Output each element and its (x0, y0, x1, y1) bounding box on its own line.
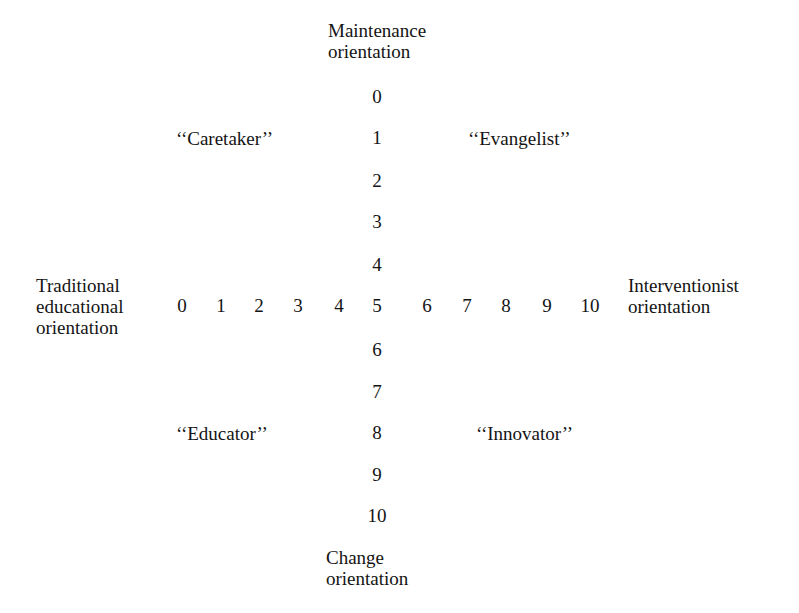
left-axis-label-line3: orientation (36, 317, 124, 338)
vertical-tick-3: 3 (362, 212, 392, 232)
horizontal-tick-4: 4 (324, 296, 354, 316)
bottom-axis-label-line2: orientation (326, 568, 408, 589)
vertical-tick-2: 2 (362, 171, 392, 191)
quadrant-innovator: ‘‘Innovator’’ (476, 423, 573, 444)
quadrant-evangelist: ‘‘Evangelist’’ (468, 128, 571, 149)
vertical-tick-8: 8 (362, 423, 392, 443)
horizontal-tick-6: 6 (412, 296, 442, 316)
vertical-tick-9: 9 (362, 465, 392, 485)
horizontal-tick-5: 5 (362, 296, 392, 316)
bottom-axis-label: Change orientation (326, 547, 408, 589)
vertical-tick-10: 10 (362, 506, 392, 526)
bottom-axis-label-line1: Change (326, 547, 408, 568)
left-axis-label: Traditional educational orientation (36, 275, 124, 338)
vertical-tick-7: 7 (362, 382, 392, 402)
vertical-tick-1: 1 (362, 128, 392, 148)
top-axis-label-line2: orientation (328, 41, 426, 62)
horizontal-tick-3: 3 (283, 296, 313, 316)
horizontal-tick-9: 9 (532, 296, 562, 316)
horizontal-tick-7: 7 (452, 296, 482, 316)
horizontal-tick-10: 10 (575, 296, 605, 316)
vertical-tick-6: 6 (362, 340, 392, 360)
top-axis-label-line1: Maintenance (328, 20, 426, 41)
horizontal-tick-8: 8 (491, 296, 521, 316)
right-axis-label-line1: Interventionist (628, 275, 739, 296)
right-axis-label: Interventionist orientation (628, 275, 739, 317)
horizontal-tick-1: 1 (206, 296, 236, 316)
vertical-tick-0: 0 (362, 87, 392, 107)
right-axis-label-line2: orientation (628, 296, 739, 317)
left-axis-label-line1: Traditional (36, 275, 124, 296)
vertical-tick-4: 4 (362, 255, 392, 275)
quadrant-caretaker: ‘‘Caretaker’’ (176, 128, 273, 149)
top-axis-label: Maintenance orientation (328, 20, 426, 62)
left-axis-label-line2: educational (36, 296, 124, 317)
horizontal-tick-2: 2 (244, 296, 274, 316)
horizontal-tick-0: 0 (167, 296, 197, 316)
quadrant-educator: ‘‘Educator’’ (176, 423, 268, 444)
